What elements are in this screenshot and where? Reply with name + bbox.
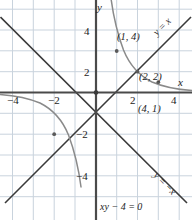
ytick-label-4: 4 (84, 26, 90, 37)
ytick-label-neg2: −2 (76, 129, 88, 140)
ytick-label-2: 2 (84, 67, 90, 78)
xtick-label-neg4: −4 (7, 95, 19, 106)
xtick-label-4: 4 (171, 95, 177, 106)
graph-figure: y x −4 −2 2 4 4 2 −2 −4 (1, 4) (2, 2) (4… (0, 0, 192, 220)
point-marker-neg2-neg2 (52, 132, 56, 136)
point-label-2-2: (2, 2) (139, 72, 162, 83)
x-axis-label: x (178, 77, 183, 88)
point-label-4-1: (4, 1) (138, 104, 161, 115)
point-label-1-4: (1, 4) (117, 32, 140, 43)
point-marker-1-4 (115, 49, 119, 53)
ytick-label-neg4: −4 (76, 171, 88, 182)
xtick-label-2: 2 (130, 95, 136, 106)
xtick-label-neg2: −2 (48, 95, 60, 106)
equation-label: xy − 4 = 0 (100, 202, 142, 212)
origin-marker (94, 90, 99, 95)
y-axis-label: y (97, 2, 102, 13)
